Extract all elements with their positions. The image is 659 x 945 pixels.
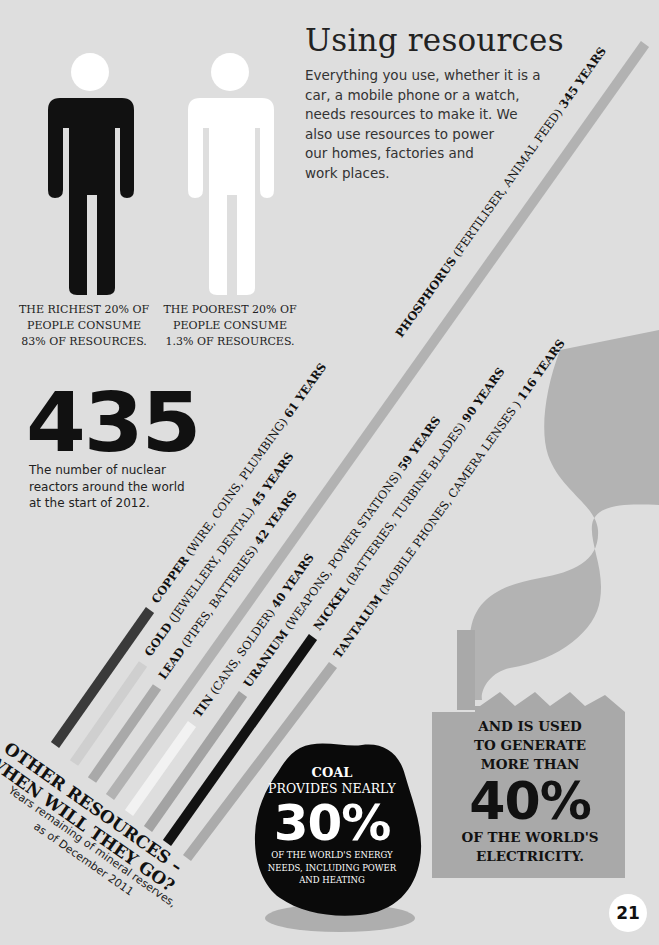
bar-lead bbox=[92, 687, 157, 780]
electricity-callout: AND IS USED TO GENERATE MORE THAN 40% OF… bbox=[430, 717, 630, 866]
electricity-percent: 40% bbox=[430, 774, 630, 828]
poor-caption: THE POOREST 20% OF PEOPLE CONSUME 1.3% O… bbox=[160, 302, 300, 350]
rich-person-figure bbox=[40, 50, 145, 300]
intro-paragraph: Everything you use, whether it is a car,… bbox=[305, 66, 575, 183]
page-number: 21 bbox=[609, 894, 647, 932]
page-title: Using resources bbox=[305, 22, 564, 58]
coal-callout: COAL PROVIDES NEARLY 30% OF THE WORLD'S … bbox=[252, 765, 412, 887]
reactor-description: The number of nuclear reactors around th… bbox=[29, 462, 189, 512]
reactor-count: 435 bbox=[26, 382, 199, 464]
coal-percent: 30% bbox=[252, 797, 412, 849]
rich-caption: THE RICHEST 20% OF PEOPLE CONSUME 83% OF… bbox=[14, 302, 154, 350]
bar-tin bbox=[129, 724, 192, 813]
poor-person-figure bbox=[180, 50, 285, 300]
